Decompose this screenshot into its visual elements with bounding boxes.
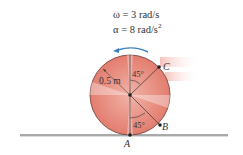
rotation-arrow-icon: [118, 48, 148, 52]
center-point: [128, 93, 132, 97]
point-b-label: B: [162, 121, 168, 132]
point-c-label: C: [163, 61, 170, 72]
point-a: [128, 133, 132, 137]
point-a-label: A: [123, 138, 131, 149]
radius-label: 0.5 m: [99, 76, 121, 86]
rolling-wheel-diagram: 0.5 m 45° 45° C B A: [0, 0, 243, 155]
angle-top-label: 45°: [132, 69, 144, 79]
point-c: [157, 65, 161, 69]
angle-bottom-label: 45°: [133, 120, 145, 130]
